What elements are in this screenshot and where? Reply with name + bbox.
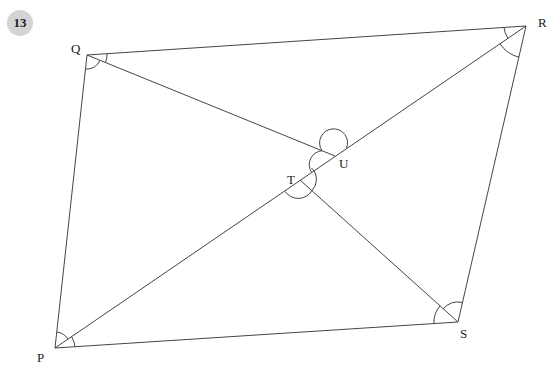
angle-arc-S-PST [434,306,440,324]
segment-TS [300,180,458,322]
point-label-Q: Q [71,41,80,57]
quadrilateral-diagram [0,0,553,368]
side-QR [87,26,526,55]
angle-arc-Q-UQP [86,60,101,69]
angle-arc-R-PRS [500,44,519,57]
point-label-S: S [460,326,467,342]
point-label-U: U [339,156,348,172]
point-label-T: T [287,172,295,188]
side-SP [55,322,458,348]
angle-arc-Q-RQU [106,54,108,63]
side-PQ [55,55,87,348]
angle-arc-R-QRP [504,28,508,39]
side-RS [458,26,526,322]
segment-QU [87,55,335,156]
angle-arc-S-TSR [443,302,463,309]
point-label-P: P [37,350,44,366]
angle-arc-P-QPR [57,332,68,339]
point-label-R: R [538,15,547,31]
angle-arc-P-RPS [72,337,76,347]
